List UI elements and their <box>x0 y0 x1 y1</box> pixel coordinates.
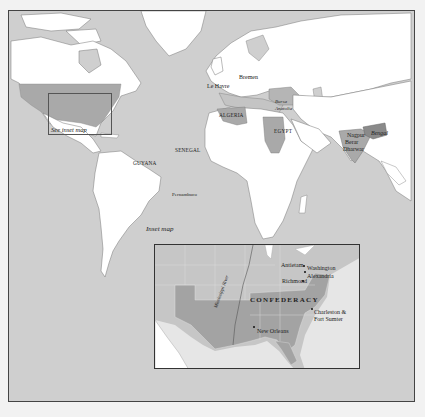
see-inset-label: See inset map <box>51 126 87 133</box>
label-pernambuco: Pernambuco <box>172 192 197 197</box>
label-berar: Berar <box>345 139 358 145</box>
label-egypt: EGYPT <box>274 129 292 134</box>
label-senegal: SENEGAL <box>175 148 201 153</box>
inset-map: Mississippi River CONFEDERACY Antietam W… <box>154 244 360 369</box>
label-anatolia: Anatolia <box>275 106 292 111</box>
label-alexandria: Alexandria <box>307 273 334 279</box>
label-nagpur: Nagpur <box>347 132 365 138</box>
inset-caption: Inset map <box>146 225 173 233</box>
label-charleston: Charleston & <box>314 309 346 315</box>
label-new-orleans: New Orleans <box>257 328 289 334</box>
label-dharwar: Dharwar <box>343 146 364 152</box>
label-bengal: Bengal <box>371 130 388 136</box>
label-bursa: Bursa <box>275 99 287 104</box>
label-bremen: Bremen <box>239 74 258 80</box>
label-confederacy: CONFEDERACY <box>250 296 319 304</box>
label-washington: Washington <box>307 265 336 271</box>
label-le-havre: Le Havre <box>207 83 230 89</box>
inset-map-shapes <box>155 245 360 369</box>
label-antietam: Antietam <box>281 262 303 268</box>
label-fort-sumter: Fort Sumter <box>314 316 343 322</box>
label-algeria: ALGERIA <box>219 113 244 118</box>
label-guyana: GUYANA <box>133 161 157 166</box>
